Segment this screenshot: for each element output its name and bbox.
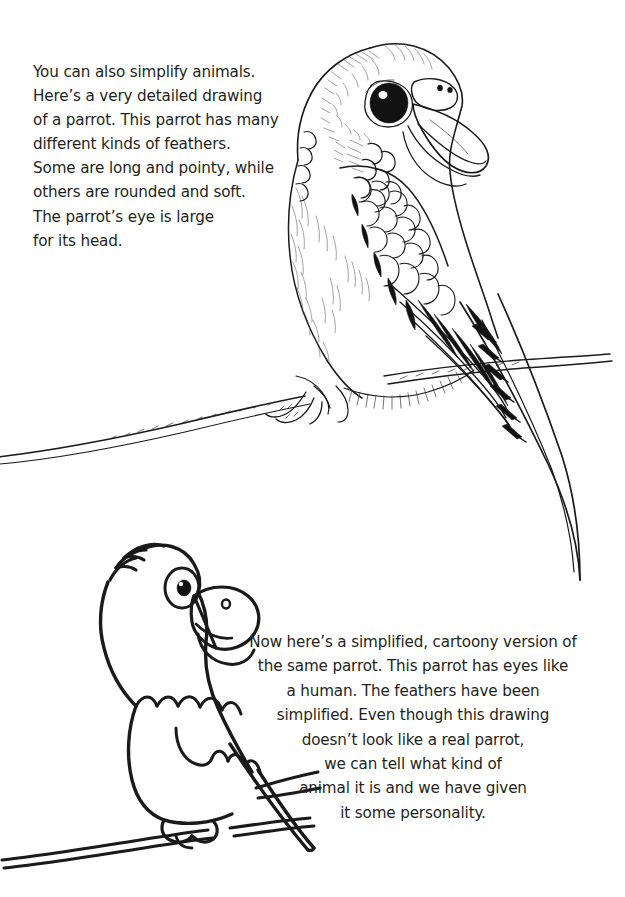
caption-paragraph: Now here’s a simplified, cartoony versio… — [232, 630, 594, 825]
head-feather-hatching — [321, 45, 432, 172]
caption-line: the same parrot. This parrot has eyes li… — [232, 654, 594, 678]
intro-line: different kinds of feathers. — [33, 132, 308, 156]
throat-feathers — [296, 131, 401, 212]
undertail-feathers — [344, 370, 474, 409]
caption-line: a human. The feathers have been — [232, 679, 594, 703]
cartoon-parrot-eye — [165, 568, 199, 608]
parrot-tail-detailed — [460, 294, 580, 580]
caption-line: Now here’s a simplified, cartoony versio… — [232, 630, 594, 654]
intro-line: The parrot’s eye is large — [33, 205, 308, 229]
intro-paragraph: You can also simplify animals. Here’s a … — [33, 60, 308, 253]
caption-line: animal it is and we have given — [232, 776, 594, 800]
wing-primary-feathers — [390, 284, 513, 432]
parrot-body-outline — [288, 44, 498, 398]
perch-branch-detailed — [0, 354, 612, 464]
parrot-foot-detailed — [266, 376, 348, 424]
intro-line: others are rounded and soft. — [33, 180, 308, 204]
page-canvas: You can also simplify animals. Here’s a … — [0, 0, 625, 897]
caption-line: doesn’t look like a real parrot, — [232, 728, 594, 752]
intro-line: for its head. — [33, 229, 308, 253]
cartoon-body-outline — [101, 545, 252, 823]
parrot-eye-detailed — [365, 80, 413, 127]
cartoon-crest — [110, 545, 164, 581]
intro-line: of a parrot. This parrot has many — [33, 108, 308, 132]
caption-line: we can tell what kind of — [232, 752, 594, 776]
intro-line: Some are long and pointy, while — [33, 156, 308, 180]
caption-line: it some personality. — [232, 801, 594, 825]
intro-line: You can also simplify animals. — [33, 60, 308, 84]
wing-covert-feathers — [340, 166, 455, 330]
cartoon-neck-feathers — [136, 697, 241, 714]
caption-line: simplified. Even though this drawing — [232, 703, 594, 727]
parrot-beak-detailed — [403, 79, 488, 186]
cartoon-parrot-foot — [162, 820, 217, 848]
intro-line: Here’s a very detailed drawing — [33, 84, 308, 108]
